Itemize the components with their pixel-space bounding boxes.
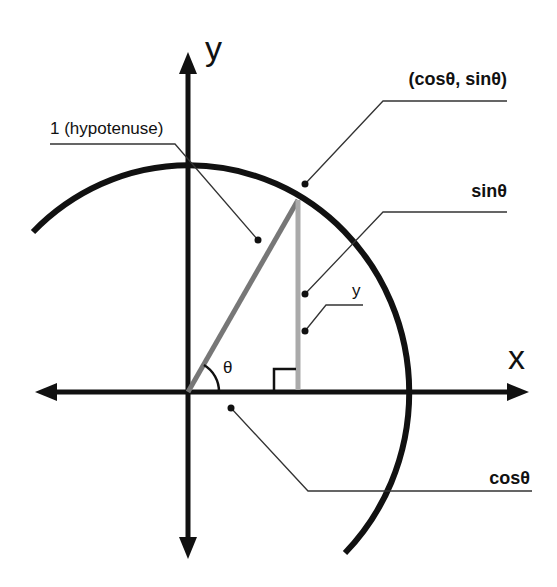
y-axis-down-arrow-icon bbox=[179, 537, 197, 559]
diagram-canvas: y x θ 1 (hypotenuse) (cosθ, sinθ) sinθ bbox=[0, 0, 557, 587]
right-angle-marker bbox=[274, 369, 296, 392]
point-label: (cosθ, sinθ) bbox=[409, 69, 507, 89]
sin-label: sinθ bbox=[471, 181, 507, 201]
opposite-y-label: y bbox=[352, 281, 361, 300]
unit-circle-diagram: y x θ 1 (hypotenuse) (cosθ, sinθ) sinθ bbox=[0, 0, 557, 587]
opposite-y-callout: y bbox=[302, 281, 364, 335]
angle-theta-label: θ bbox=[223, 358, 232, 377]
y-axis-up-arrow-icon bbox=[179, 52, 197, 74]
x-axis bbox=[35, 383, 529, 401]
y-axis bbox=[179, 52, 197, 559]
hypotenuse-callout: 1 (hypotenuse) bbox=[50, 119, 262, 244]
cos-callout: cosθ bbox=[228, 405, 533, 492]
x-axis-label: x bbox=[508, 338, 525, 376]
x-axis-right-arrow-icon bbox=[507, 383, 529, 401]
hypotenuse-segment bbox=[188, 200, 298, 392]
unit-circle-arc bbox=[33, 165, 409, 553]
point-callout: (cosθ, sinθ) bbox=[302, 69, 508, 188]
y-axis-label: y bbox=[205, 29, 222, 67]
x-axis-left-arrow-icon bbox=[35, 383, 57, 401]
angle-arc bbox=[204, 365, 219, 392]
sin-callout: sinθ bbox=[302, 181, 508, 298]
cos-label: cosθ bbox=[489, 468, 530, 488]
hypotenuse-label: 1 (hypotenuse) bbox=[50, 119, 163, 138]
